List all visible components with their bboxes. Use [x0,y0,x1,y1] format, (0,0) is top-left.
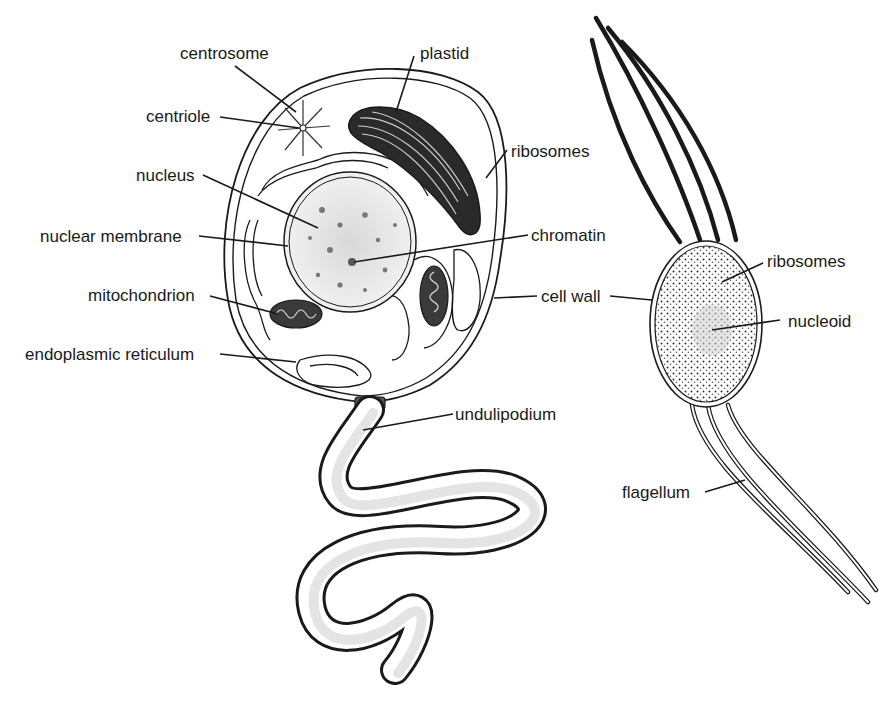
label-cell-wall: cell wall [541,287,601,306]
label-centrosome: centrosome [180,44,269,63]
label-undulipodium: undulipodium [455,405,556,424]
label-chromatin: chromatin [531,226,606,245]
nucleus [284,172,416,312]
cell-comparison-diagram: centrosome centriole nucleus nuclear mem… [0,0,890,703]
prokaryotic-cell [592,18,876,602]
undulipodium [310,410,535,673]
label-mitochondrion: mitochondrion [88,286,195,305]
label-nuclear-membrane: nuclear membrane [40,227,182,246]
label-flagellum: flagellum [622,483,690,502]
centriole [300,125,306,131]
label-nucleoid: nucleoid [788,312,851,331]
label-nucleus: nucleus [136,166,195,185]
eukaryotic-cell [224,69,535,673]
label-plastid: plastid [420,44,469,63]
label-centriole: centriole [146,107,210,126]
centrosome [278,100,330,156]
lower-flagella [692,405,876,602]
label-endoplasmic-reticulum: endoplasmic reticulum [25,345,194,364]
label-ribosomes-eukaryote: ribosomes [511,142,589,161]
upper-flagella [592,18,736,242]
label-ribosomes-prokaryote: ribosomes [767,252,845,271]
